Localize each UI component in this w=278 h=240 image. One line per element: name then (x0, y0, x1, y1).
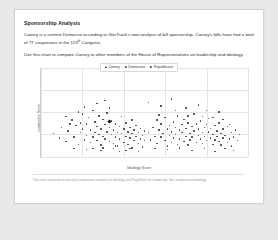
scatter-point[interactable] (127, 144, 129, 146)
scatter-point[interactable] (171, 142, 173, 144)
scatter-point[interactable] (113, 129, 115, 131)
scatter-point[interactable] (78, 144, 80, 146)
scatter-point[interactable] (179, 129, 181, 131)
scatter-point[interactable] (173, 137, 175, 139)
scatter-point[interactable] (193, 113, 195, 115)
scatter-point[interactable] (202, 132, 204, 134)
scatter-point[interactable] (220, 144, 222, 146)
legend-item-democrats[interactable]: Democrats (125, 65, 146, 69)
scatter-point[interactable] (86, 123, 88, 125)
scatter-point[interactable] (233, 150, 235, 152)
scatter-point[interactable] (138, 151, 140, 153)
scatter-point[interactable] (183, 141, 185, 143)
scatter-point[interactable] (123, 128, 125, 130)
scatter-point[interactable] (138, 132, 140, 134)
scatter-point[interactable] (191, 136, 193, 138)
scatter-point[interactable] (179, 138, 181, 140)
scatter-point[interactable] (212, 117, 214, 119)
scatter-point[interactable] (227, 142, 229, 144)
scatter-point[interactable] (117, 145, 119, 147)
scatter-point[interactable] (224, 135, 226, 137)
scatter-point[interactable] (59, 137, 61, 139)
scatter-point[interactable] (82, 113, 84, 115)
scatter-point[interactable] (160, 105, 162, 107)
scatter-point[interactable] (183, 119, 185, 121)
scatter-point[interactable] (208, 131, 210, 133)
scatter-point[interactable] (158, 114, 160, 116)
scatter-point[interactable] (212, 144, 214, 146)
scatter-point[interactable] (210, 128, 212, 130)
scatter-point[interactable] (191, 126, 193, 128)
scatter-point[interactable] (115, 136, 117, 138)
scatter-point[interactable] (154, 148, 156, 150)
scatter-point[interactable] (185, 128, 187, 130)
scatter-point[interactable] (156, 143, 158, 145)
scatter-point[interactable] (65, 141, 67, 143)
legend-item-republicans[interactable]: Republicans (150, 65, 173, 69)
scatter-point[interactable] (100, 144, 102, 146)
scatter-point[interactable] (181, 132, 183, 134)
scatter-point[interactable] (229, 124, 231, 126)
scatter-point[interactable] (142, 135, 144, 137)
plot-area[interactable] (40, 68, 248, 158)
scatter-point[interactable] (109, 141, 111, 143)
scatter-point[interactable] (204, 148, 206, 150)
scatter-point[interactable] (200, 120, 202, 122)
scatter-point[interactable] (204, 136, 206, 138)
scatter-point[interactable] (191, 150, 193, 152)
scatter-point[interactable] (140, 138, 142, 140)
scatter-point[interactable] (104, 100, 106, 102)
scatter-point[interactable] (202, 143, 204, 145)
scatter-point[interactable] (104, 138, 106, 140)
scatter-point[interactable] (167, 145, 169, 147)
scatter-point[interactable] (125, 150, 127, 152)
scatter-point[interactable] (144, 130, 146, 132)
scatter-point[interactable] (94, 121, 96, 123)
scatter-point[interactable] (179, 147, 181, 149)
scatter-point[interactable] (227, 126, 229, 128)
scatter-point[interactable] (140, 128, 142, 130)
scatter-point[interactable] (185, 107, 187, 109)
scatter-point[interactable] (193, 130, 195, 132)
scatter-point[interactable] (204, 127, 206, 129)
scatter-point[interactable] (187, 122, 189, 124)
scatter-point[interactable] (131, 147, 133, 149)
scatter-point[interactable] (129, 137, 131, 139)
scatter-point[interactable] (214, 139, 216, 141)
scatter-point[interactable] (78, 111, 80, 113)
legend-item-carney[interactable]: Carney (105, 65, 120, 69)
scatter-point[interactable] (171, 131, 173, 133)
scatter-point[interactable] (196, 123, 198, 125)
scatter-point[interactable] (167, 149, 169, 151)
scatter-point[interactable] (222, 128, 224, 130)
scatter-point[interactable] (210, 137, 212, 139)
scatter-point[interactable] (94, 132, 96, 134)
scatter-point[interactable] (142, 146, 144, 148)
scatter-point[interactable] (231, 132, 233, 134)
scatter-point[interactable] (109, 107, 111, 109)
chart-legend[interactable]: Carney Democrats Republicans (100, 63, 178, 72)
scatter-point[interactable] (80, 122, 82, 124)
scatter-point[interactable] (73, 136, 75, 138)
scatter-point[interactable] (121, 116, 123, 118)
scatter-point[interactable] (131, 119, 133, 121)
scatter-point[interactable] (133, 140, 135, 142)
scatter-point[interactable] (129, 127, 131, 129)
scatter-point[interactable] (198, 128, 200, 130)
scatter-point[interactable] (156, 119, 158, 121)
scatter-point[interactable] (160, 123, 162, 125)
scatter-point[interactable] (214, 151, 216, 153)
scatter-point[interactable] (119, 126, 121, 128)
scatter-point[interactable] (237, 140, 239, 142)
scatter-point[interactable] (92, 148, 94, 150)
scatter-point[interactable] (171, 98, 173, 100)
scatter-point[interactable] (177, 144, 179, 146)
scatter-point[interactable] (90, 142, 92, 144)
scatter-point[interactable] (127, 131, 129, 133)
scatter-point[interactable] (175, 127, 177, 129)
scatter-point[interactable] (86, 149, 88, 151)
scatter-point[interactable] (222, 119, 224, 121)
scatter-point[interactable] (125, 122, 127, 124)
scatter-point[interactable] (135, 136, 137, 138)
scatter-point[interactable] (200, 138, 202, 140)
